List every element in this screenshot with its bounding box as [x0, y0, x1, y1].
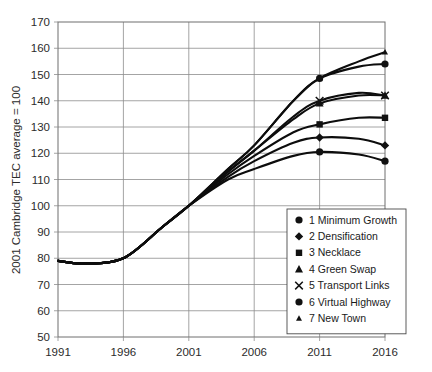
legend-item-5[interactable]: 5 Transport Links: [295, 279, 389, 291]
x-tick-label: 2001: [176, 346, 202, 358]
scenario-growth-line-chart: 5060708090100110120130140150160170 19911…: [0, 0, 432, 372]
series-marker-6: [381, 60, 388, 67]
y-axis-title: 2001 Cambridge TEC average = 100: [10, 86, 22, 274]
legend-item-label: 6 Virtual Highway: [309, 296, 391, 308]
y-tick-label: 130: [31, 121, 50, 133]
y-tick-label: 90: [37, 226, 50, 238]
legend-item-label: 5 Transport Links: [309, 279, 390, 291]
legend-item-label: 3 Necklace: [309, 246, 361, 258]
series-marker-1: [381, 158, 388, 165]
legend-item-label: 4 Green Swap: [309, 263, 376, 275]
series-marker-1: [316, 148, 323, 155]
y-tick-label: 170: [31, 16, 50, 28]
x-tick-label: 2011: [307, 346, 332, 358]
y-tick-label: 100: [31, 200, 50, 212]
chart-legend: 1 Minimum Growth2 Densification3 Necklac…: [287, 209, 406, 334]
legend-item-label: 2 Densification: [309, 230, 378, 242]
y-tick-label: 60: [37, 305, 50, 317]
chart-canvas: 5060708090100110120130140150160170 19911…: [0, 0, 432, 372]
y-tick-label: 160: [31, 42, 50, 54]
legend-marker-3: [296, 250, 302, 256]
x-tick-label: 1996: [111, 346, 137, 358]
x-tick-label: 2006: [241, 346, 267, 358]
y-tick-label: 110: [32, 174, 50, 186]
legend-item-label: 7 New Town: [309, 312, 366, 324]
legend-item-1[interactable]: 1 Minimum Growth: [295, 214, 397, 226]
legend-marker-1: [295, 216, 302, 223]
series-marker-3: [382, 115, 388, 121]
y-tick-label: 120: [31, 147, 50, 159]
legend-item-label: 1 Minimum Growth: [309, 214, 397, 226]
x-tick-label: 1991: [45, 346, 71, 358]
y-tick-label: 150: [31, 69, 50, 81]
legend-marker-6: [295, 298, 302, 305]
y-tick-label: 70: [37, 279, 50, 291]
y-tick-label: 50: [37, 331, 50, 343]
legend-item-6[interactable]: 6 Virtual Highway: [295, 296, 391, 308]
y-tick-label: 140: [31, 95, 50, 107]
y-tick-label: 80: [37, 252, 50, 264]
x-tick-label: 2016: [372, 346, 398, 358]
series-marker-3: [316, 121, 322, 127]
